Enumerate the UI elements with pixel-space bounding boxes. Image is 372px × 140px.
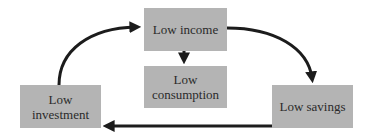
node-low-income: Low income — [144, 8, 227, 51]
vicious-cycle-diagram: Low income Low consumption Low savings L… — [0, 0, 372, 140]
node-label-line2: consumption — [152, 87, 219, 102]
node-label: Low income — [153, 22, 218, 37]
node-low-savings: Low savings — [272, 85, 353, 128]
node-label: Low savings — [279, 99, 345, 114]
node-low-consumption: Low consumption — [144, 66, 227, 108]
arrow-investment-to-income — [59, 27, 136, 85]
node-low-investment: Low investment — [20, 85, 101, 128]
arrow-income-to-savings — [227, 28, 312, 78]
node-label-line1: Low — [49, 92, 73, 107]
node-label-line2: investment — [32, 107, 89, 122]
node-label-line1: Low — [174, 72, 198, 87]
